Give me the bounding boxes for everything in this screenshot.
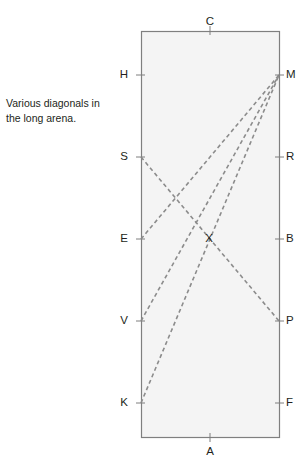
vertex-label-a: A [204, 446, 216, 458]
vertex-label-f: F [286, 397, 302, 409]
vertex-label-s: S [112, 151, 128, 163]
vertex-label-x: X [203, 233, 215, 245]
vertex-label-k: K [112, 397, 128, 409]
vertex-label-v: V [112, 315, 128, 327]
vertex-label-c: C [204, 16, 216, 28]
vertex-label-b: B [286, 233, 302, 245]
vertex-label-p: P [286, 315, 302, 327]
figure-root: · · · · Various diagonals in the long ar… [0, 0, 304, 465]
vertex-label-r: R [286, 151, 302, 163]
vertex-label-e: E [112, 233, 128, 245]
arena-diagram: CHMSREBVPKFAX [0, 0, 304, 465]
vertex-label-h: H [112, 69, 128, 81]
vertex-label-m: M [286, 69, 302, 81]
arena-diagram-svg [0, 0, 304, 465]
